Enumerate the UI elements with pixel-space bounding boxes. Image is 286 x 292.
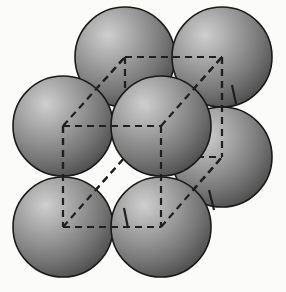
lattice-canvas: Close-packed spheres with dashed cubic u… [0,0,286,292]
lattice-figure: Close-packed spheres with dashed cubic u… [0,0,286,292]
